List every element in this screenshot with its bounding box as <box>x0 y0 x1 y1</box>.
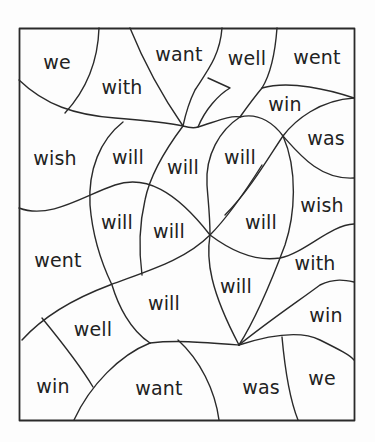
region-word[interactable]: we <box>308 369 336 388</box>
region-word[interactable]: was <box>242 378 280 397</box>
region-word[interactable]: will <box>220 277 252 296</box>
region-word[interactable]: will <box>153 222 185 241</box>
region-word[interactable]: went <box>34 251 82 270</box>
region-word[interactable]: will <box>224 148 256 167</box>
region-word[interactable]: will <box>148 294 180 313</box>
region-word[interactable]: win <box>309 306 342 325</box>
region-word[interactable]: want <box>155 45 202 64</box>
region-word[interactable]: will <box>101 213 133 232</box>
leaf-line <box>198 78 230 127</box>
region-word[interactable]: win <box>268 95 301 114</box>
apple-bottom-line <box>150 342 239 345</box>
region-word[interactable]: well <box>74 320 113 339</box>
region-word[interactable]: well <box>228 49 267 68</box>
divider-line <box>178 340 219 420</box>
worksheet-border <box>20 29 355 421</box>
color-by-word-worksheet: wewithwantwellwentwinwaswishwillwillwill… <box>0 0 375 442</box>
region-word[interactable]: will <box>112 148 144 167</box>
region-word[interactable]: wish <box>33 149 77 168</box>
region-word[interactable]: was <box>307 129 345 148</box>
region-word[interactable]: with <box>101 78 142 97</box>
divider-line <box>282 337 298 420</box>
region-word[interactable]: went <box>293 48 341 67</box>
region-word[interactable]: with <box>294 254 335 273</box>
region-word[interactable]: win <box>36 377 69 396</box>
region-word[interactable]: we <box>43 53 71 72</box>
region-word[interactable]: wish <box>300 196 344 215</box>
region-word[interactable]: want <box>135 379 182 398</box>
divider-line <box>239 335 354 360</box>
region-word[interactable]: will <box>245 213 277 232</box>
region-word[interactable]: will <box>167 158 199 177</box>
